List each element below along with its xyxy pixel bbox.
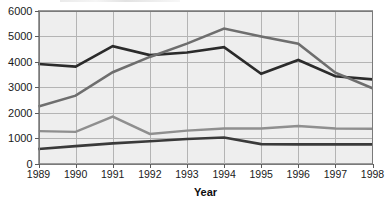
- y-axis-tick-label: 1000: [8, 132, 32, 144]
- y-axis-tick-label: 5000: [8, 30, 32, 42]
- x-axis-tick-label: 1998: [361, 168, 385, 180]
- x-axis-tick-label: 1990: [64, 168, 88, 180]
- chart-canvas: 0100020003000400050006000198919901991199…: [0, 0, 385, 204]
- y-axis-tick-label: 4000: [8, 56, 32, 68]
- x-axis-tick-label: 1995: [249, 168, 273, 180]
- x-axis-tick-label: 1991: [101, 168, 125, 180]
- y-axis-tick-label: 2000: [8, 107, 32, 119]
- x-axis-tick-label: 1996: [287, 168, 311, 180]
- x-axis-title: Year: [194, 186, 218, 198]
- x-axis-tick-label: 1994: [212, 168, 236, 180]
- x-axis-tick-label: 1989: [27, 168, 51, 180]
- x-axis-tick-label: 1997: [324, 168, 348, 180]
- y-axis-tick-label: 6000: [8, 5, 32, 17]
- x-axis-tick-label: 1992: [138, 168, 162, 180]
- x-axis-tick-label: 1993: [175, 168, 199, 180]
- line-chart: 0100020003000400050006000198919901991199…: [0, 0, 385, 204]
- y-axis-tick-label: 3000: [8, 81, 32, 93]
